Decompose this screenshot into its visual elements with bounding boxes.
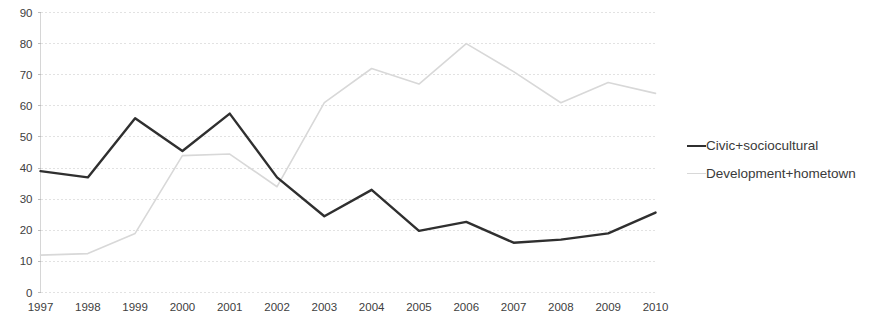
y-tick-label-0: 0 [0, 287, 33, 299]
x-tick-label-2002: 2002 [252, 301, 302, 313]
x-tick-label-2006: 2006 [441, 301, 491, 313]
x-tick-label-2009: 2009 [583, 301, 633, 313]
line-chart: 0102030405060708090 19971998199920002001… [0, 0, 877, 318]
x-tick-label-2008: 2008 [536, 301, 586, 313]
y-tick-label-90: 90 [0, 7, 33, 19]
x-tick-label-1998: 1998 [63, 301, 113, 313]
y-tick-label-30: 30 [0, 193, 33, 205]
chart-canvas [0, 0, 670, 318]
y-tick-label-40: 40 [0, 162, 33, 174]
x-tick-label-2001: 2001 [205, 301, 255, 313]
x-tick-label-1997: 1997 [16, 301, 66, 313]
x-tick-label-2003: 2003 [299, 301, 349, 313]
y-tick-label-70: 70 [0, 69, 33, 81]
series-lines [41, 44, 656, 256]
chart-legend: Civic+sociocultural Development+hometown [686, 131, 876, 187]
x-tick-label-2005: 2005 [394, 301, 444, 313]
y-tick-label-60: 60 [0, 100, 33, 112]
legend-item-development-hometown[interactable]: Development+hometown [686, 159, 876, 187]
series-line-development-hometown [41, 44, 656, 256]
legend-item-civic-sociocultural[interactable]: Civic+sociocultural [686, 131, 876, 159]
legend-label-development-hometown: Development+hometown [706, 166, 856, 181]
x-tick-label-2007: 2007 [489, 301, 539, 313]
legend-line-icon-development-hometown [686, 167, 706, 179]
axis-lines [38, 13, 41, 293]
x-tick-label-2004: 2004 [347, 301, 397, 313]
y-tick-label-20: 20 [0, 224, 33, 236]
gridlines [41, 13, 656, 293]
plot-area: 0102030405060708090 19971998199920002001… [0, 0, 670, 318]
y-tick-label-10: 10 [0, 255, 33, 267]
series-line-civic-sociocultural [41, 114, 656, 243]
y-tick-label-50: 50 [0, 131, 33, 143]
y-tick-label-80: 80 [0, 38, 33, 50]
x-tick-label-2010: 2010 [631, 301, 681, 313]
x-tick-label-2000: 2000 [157, 301, 207, 313]
legend-label-civic-sociocultural: Civic+sociocultural [706, 138, 818, 153]
legend-line-icon-civic-sociocultural [686, 139, 706, 151]
x-tick-label-1999: 1999 [110, 301, 160, 313]
